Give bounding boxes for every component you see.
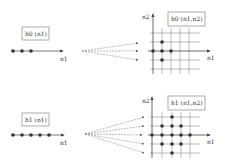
sample-dot bbox=[160, 40, 164, 44]
sample-dot bbox=[150, 133, 154, 137]
sample-dot bbox=[29, 49, 33, 53]
sample-dot bbox=[179, 124, 183, 128]
sample-dot bbox=[160, 133, 164, 137]
sample-dot bbox=[179, 133, 183, 137]
sample-dot bbox=[160, 49, 164, 53]
top-2d-dots bbox=[151, 40, 173, 62]
sample-dot bbox=[179, 142, 183, 146]
sample-dot bbox=[20, 49, 24, 53]
top-2d-n1-label: n1 bbox=[207, 54, 215, 61]
bottom-1d-axis-label: n1 bbox=[60, 139, 68, 146]
top-mapping-arrows bbox=[82, 43, 138, 60]
bottom-mapping-arrows bbox=[85, 117, 144, 153]
sample-dot bbox=[160, 124, 164, 128]
sample-dot bbox=[29, 133, 33, 137]
sample-dot bbox=[160, 58, 164, 62]
sample-dot bbox=[169, 49, 173, 53]
sample-dot bbox=[38, 133, 42, 137]
bottom-2d-filter: h1 (n1,n2) n2 n1 bbox=[142, 96, 215, 158]
top-1d-dots bbox=[11, 49, 33, 53]
top-1d-label: h0 (n1) bbox=[25, 30, 47, 37]
sample-dot bbox=[20, 133, 24, 137]
bottom-2d-n2-label: n2 bbox=[142, 97, 150, 104]
top-2d-filter: h0 (n1,n2) n2 n1 bbox=[142, 12, 215, 74]
sample-dot bbox=[170, 124, 174, 128]
top-2d-n2-label: n2 bbox=[142, 13, 150, 20]
bottom-1d-label: h1 (n1) bbox=[25, 116, 47, 123]
sample-dot bbox=[170, 133, 174, 137]
bottom-2d-label: h1 (n1,n2) bbox=[171, 99, 203, 106]
top-1d-axis-label: n1 bbox=[60, 55, 68, 62]
bottom-1d-filter: h1 (n1) n1 bbox=[11, 113, 68, 146]
diagram-canvas: h0 (n1) n1 h0 (n1,n2) n2 n1 h1 (n1) n1 bbox=[0, 0, 225, 164]
sample-dot bbox=[11, 133, 15, 137]
sample-dot bbox=[170, 115, 174, 119]
sample-dot bbox=[170, 142, 174, 146]
sample-dot bbox=[170, 151, 174, 155]
sample-dot bbox=[188, 133, 192, 137]
top-2d-label: h0 (n1,n2) bbox=[171, 15, 203, 22]
sample-dot bbox=[47, 133, 51, 137]
sample-dot bbox=[151, 49, 155, 53]
sample-dot bbox=[160, 142, 164, 146]
top-1d-filter: h0 (n1) n1 bbox=[11, 27, 68, 62]
bottom-2d-n1-label: n1 bbox=[207, 138, 215, 145]
sample-dot bbox=[11, 49, 15, 53]
